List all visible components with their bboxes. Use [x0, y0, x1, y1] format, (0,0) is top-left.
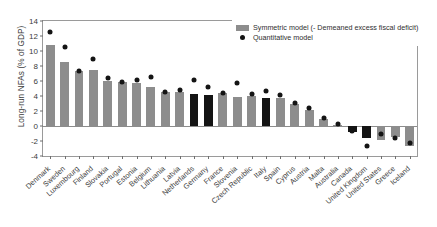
- x-axis-tick-mark: [252, 156, 253, 159]
- bar-spain: [276, 98, 285, 127]
- dot-slovenia: [235, 81, 240, 86]
- dot-luxembourg: [76, 68, 81, 73]
- x-axis-tick-mark: [352, 156, 353, 159]
- x-axis-tick-mark: [50, 156, 51, 159]
- dot-marker-icon: [236, 35, 249, 40]
- bar-belgium: [146, 87, 155, 126]
- bar-italy: [262, 98, 271, 126]
- x-axis-tick-mark: [93, 156, 94, 159]
- y-axis-tick-mark: [40, 21, 43, 22]
- dot-austria: [307, 106, 312, 111]
- dot-sweden: [62, 44, 67, 49]
- x-axis-tick-mark: [223, 156, 224, 159]
- bar-lithuania: [161, 92, 170, 126]
- x-axis-tick-mark: [108, 156, 109, 159]
- bar-czech-republic: [247, 96, 256, 126]
- dot-belgium: [148, 74, 153, 79]
- bar-luxembourg: [75, 71, 84, 127]
- x-axis-tick-mark: [410, 156, 411, 159]
- nfa-bar-chart: Long-run NFAs (% of GDP) -4-202468101214…: [0, 0, 437, 227]
- x-axis-tick-mark: [165, 156, 166, 159]
- bar-swatch-icon: [236, 25, 249, 31]
- x-axis-tick-mark: [180, 156, 181, 159]
- dot-denmark: [48, 29, 53, 34]
- bar-united-kingdom: [362, 126, 371, 138]
- y-axis-title: Long-run NFAs (% of GDP): [17, 12, 26, 142]
- x-axis-tick-mark: [338, 156, 339, 159]
- y-axis-tick-mark: [40, 51, 43, 52]
- dot-italy: [263, 88, 268, 93]
- x-axis-tick-mark: [295, 156, 296, 159]
- y-axis-tick-mark: [40, 111, 43, 112]
- bar-france: [218, 93, 227, 126]
- chart-legend: Symmetric model (- Demeaned excess fisca…: [232, 20, 422, 46]
- dot-slovakia: [105, 76, 110, 81]
- dot-lithuania: [163, 89, 168, 94]
- dot-finland: [91, 56, 96, 61]
- x-axis-tick-mark: [381, 156, 382, 159]
- bar-sweden: [60, 62, 69, 126]
- dot-czech-republic: [249, 91, 254, 96]
- x-axis-tick-mark: [266, 156, 267, 159]
- legend-label-symmetric-model: Symmetric model (- Demeaned excess fisca…: [253, 23, 418, 32]
- legend-item-quantitative-model: Quantitative model: [236, 33, 418, 42]
- x-axis-tick-mark: [208, 156, 209, 159]
- legend-label-quantitative-model: Quantitative model: [253, 33, 313, 42]
- bar-cyprus: [290, 104, 299, 126]
- x-axis-tick-mark: [395, 156, 396, 159]
- y-axis-tick-mark: [40, 36, 43, 37]
- x-axis-tick-mark: [122, 156, 123, 159]
- dot-cyprus: [292, 100, 297, 105]
- y-axis-tick-mark: [40, 96, 43, 97]
- dot-united-states: [379, 131, 384, 136]
- bar-slovakia: [103, 81, 112, 126]
- x-axis-tick-mark: [324, 156, 325, 159]
- x-axis-tick-mark: [137, 156, 138, 159]
- dot-greece: [393, 136, 398, 141]
- bar-latvia: [175, 92, 184, 126]
- bar-netherlands: [190, 94, 199, 126]
- y-axis-tick-mark: [40, 156, 43, 157]
- x-axis-tick-mark: [151, 156, 152, 159]
- bar-portugal: [118, 82, 127, 126]
- dot-latvia: [177, 88, 182, 93]
- y-axis-tick-mark: [40, 66, 43, 67]
- dot-malta: [321, 115, 326, 120]
- dot-france: [220, 91, 225, 96]
- legend-item-symmetric-model: Symmetric model (- Demeaned excess fisca…: [236, 23, 418, 32]
- x-axis-tick-mark: [194, 156, 195, 159]
- dot-iceland: [407, 140, 412, 145]
- dot-estonia: [134, 78, 139, 83]
- x-axis-tick-mark: [367, 156, 368, 159]
- x-axis-tick-mark: [79, 156, 80, 159]
- bar-slovenia: [233, 97, 242, 126]
- x-axis-tick-mark: [65, 156, 66, 159]
- bar-germany: [204, 95, 213, 126]
- bar-finland: [89, 70, 98, 126]
- x-axis-tick-mark: [309, 156, 310, 159]
- y-axis-tick-mark: [40, 81, 43, 82]
- y-axis-tick-mark: [40, 141, 43, 142]
- dot-germany: [206, 85, 211, 90]
- dot-netherlands: [192, 78, 197, 83]
- dot-australia: [335, 121, 340, 126]
- bar-denmark: [46, 45, 55, 126]
- dot-united-kingdom: [364, 143, 369, 148]
- zero-baseline: [43, 126, 417, 127]
- dot-canada: [350, 129, 355, 134]
- dot-portugal: [120, 79, 125, 84]
- x-axis-tick-mark: [237, 156, 238, 159]
- bar-malta: [319, 119, 328, 126]
- dot-spain: [278, 92, 283, 97]
- x-axis-tick-mark: [280, 156, 281, 159]
- bar-austria: [305, 110, 314, 127]
- bar-estonia: [132, 83, 141, 127]
